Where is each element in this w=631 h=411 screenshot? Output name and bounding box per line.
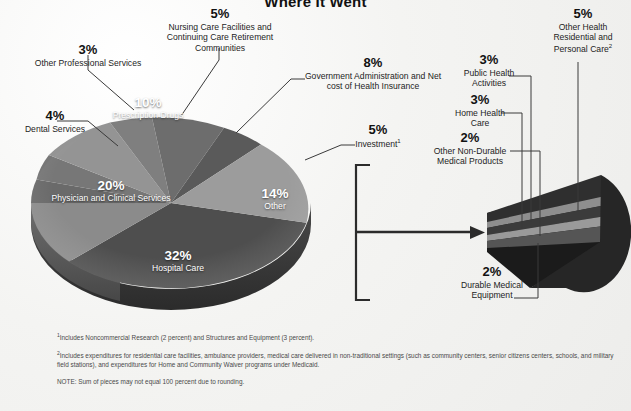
callout-other-health-residential: 5% Other Health Residential and Personal…	[537, 6, 629, 54]
footnote-ref-1: 1	[397, 138, 400, 144]
callout-investment: 5% Investment1	[340, 122, 416, 149]
footnote-two: 2Includes expenditures for residential c…	[57, 350, 623, 370]
callout-other-non-durable-medical-products: 2% Other Non-Durable Medical Products	[418, 130, 522, 167]
leader-government	[236, 79, 305, 133]
pie-label-prescription-drugs: 10% Prescription Drugs	[106, 95, 190, 120]
footnote-ref-2: 2	[609, 43, 612, 49]
callout-government-administration: 8% Government Administration and Net cos…	[300, 55, 446, 92]
pie-label-other: 14% Other	[240, 186, 310, 211]
callout-other-professional-services: 3% Other Professional Services	[8, 42, 168, 68]
pie-label-hospital-care: 32% Hospital Care	[118, 248, 238, 273]
callout-durable-medical-equipment: 2% Durable Medical Equipment	[442, 264, 542, 301]
callout-public-health-activities: 3% Public Health Activities	[456, 52, 522, 89]
pie-label-physician: 20% Physician and Clinical Services	[47, 178, 175, 203]
callout-nursing-care-facilities: 5% Nursing Care Facilities and Continuin…	[150, 6, 290, 53]
footnote-one: 1Includes Noncommercial Research (2 perc…	[57, 332, 527, 342]
rounding-note: NOTE: Sum of pieces may not equal 100 pe…	[57, 378, 477, 385]
callout-dental-services: 4% Dental Services	[2, 108, 108, 134]
callout-home-health-care: 3% Home Health Care	[449, 92, 511, 129]
infographic-canvas: Where It Went	[0, 0, 631, 411]
arrow-head	[470, 226, 485, 239]
